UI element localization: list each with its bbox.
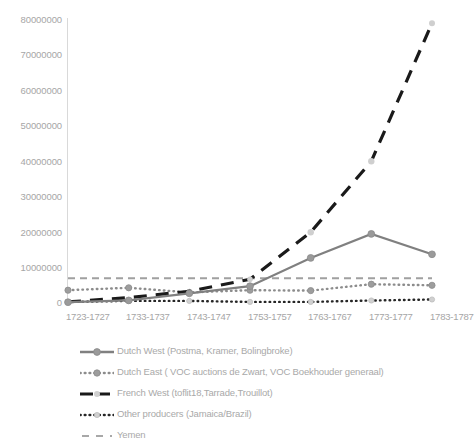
legend-label: French West (toflit18,Tarrade,Trouillot) <box>117 387 273 398</box>
x-tick-label: 1733-1737 <box>126 311 170 322</box>
legend-key-solid-line-icon <box>80 344 114 356</box>
legend-item-dutch-east[interactable]: Dutch East ( VOC auctions de Zwart, VOC … <box>80 361 384 381</box>
x-tick-label: 1753-1757 <box>248 311 292 322</box>
legend-item-other-producers[interactable]: Other producers (Jamaica/Brazil) <box>80 403 252 423</box>
x-tick-label: 1763-1767 <box>308 311 352 322</box>
series-markers-french-west <box>247 20 435 282</box>
legend-item-dutch-west[interactable]: Dutch West (Postma, Kramer, Bolingbroke) <box>80 340 292 360</box>
chart-legend: Dutch West (Postma, Kramer, Bolingbroke)… <box>0 336 455 442</box>
x-tick-label: 1773-1777 <box>369 311 413 322</box>
x-tick-label: 1723-1727 <box>66 311 110 322</box>
legend-key-dashed-line-icon <box>80 386 114 398</box>
x-tick-label: 1783-1787 <box>430 311 474 322</box>
series-line-french-west <box>68 23 432 302</box>
legend-label: Dutch East ( VOC auctions de Zwart, VOC … <box>117 366 384 377</box>
legend-label: Yemen <box>117 429 145 440</box>
legend-label: Other producers (Jamaica/Brazil) <box>117 408 252 419</box>
legend-item-yemen[interactable]: Yemen <box>80 424 145 442</box>
legend-label: Dutch West (Postma, Kramer, Bolingbroke) <box>117 345 292 356</box>
legend-key-dotted-line-icon <box>80 407 114 419</box>
legend-item-french-west[interactable]: French West (toflit18,Tarrade,Trouillot) <box>80 382 273 402</box>
x-tick-label: 1743-1747 <box>187 311 231 322</box>
series-markers-dutch-west <box>65 231 436 306</box>
legend-key-dashed-line-icon <box>80 428 114 440</box>
legend-key-dotted-line-icon <box>80 365 114 377</box>
plot-area <box>0 0 455 336</box>
